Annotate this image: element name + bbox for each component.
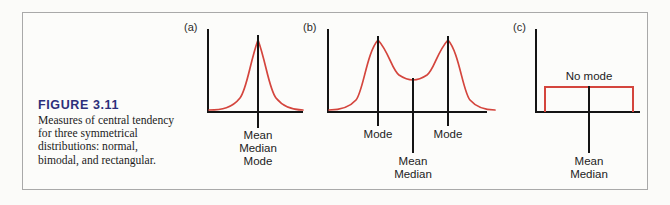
figure-root: FIGURE 3.11 Measures of central tendency…	[0, 0, 670, 205]
panel-c-y-axis	[535, 29, 537, 113]
panel-c-letter: (c)	[513, 21, 526, 33]
panel-c-center-line	[588, 86, 590, 153]
panel-c-label-median: Median	[570, 168, 608, 181]
panel-c-rectangular: (c) No mode Mean Median	[0, 0, 670, 180]
panel-c-label-no-mode: No mode	[566, 70, 613, 83]
panel-c-label-mean: Mean	[575, 155, 604, 168]
